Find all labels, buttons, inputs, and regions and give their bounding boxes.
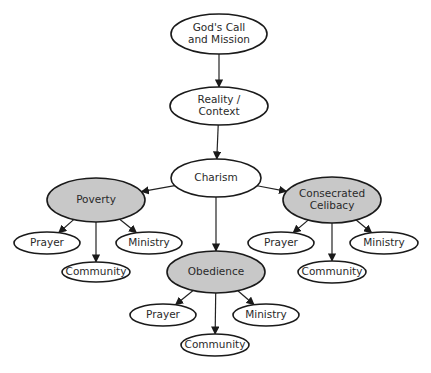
node-label-reality: Reality /: [198, 93, 241, 105]
node-label-obe-community: Community: [185, 338, 246, 350]
node-celibacy: ConsecratedCelibacy: [283, 177, 381, 223]
arrow-charism-to-poverty: [141, 186, 174, 192]
node-obedience: Obedience: [167, 251, 265, 293]
arrow-charism-to-celibacy: [257, 186, 287, 192]
arrow-reality-to-charism: [217, 125, 218, 159]
node-label-poverty: Poverty: [76, 193, 116, 205]
node-label-obe-ministry: Ministry: [245, 308, 287, 320]
node-label-call: and Mission: [188, 33, 250, 45]
node-label-pov-community: Community: [66, 265, 127, 277]
node-charism: Charism: [171, 159, 261, 197]
arrow-poverty-to-pov-prayer: [59, 220, 74, 233]
node-obe-prayer: Prayer: [130, 304, 196, 326]
arrow-obedience-to-obe-community: [215, 293, 216, 334]
node-label-cel-ministry: Ministry: [363, 236, 405, 248]
node-label-obedience: Obedience: [188, 265, 244, 277]
node-pov-ministry: Ministry: [116, 232, 182, 254]
node-cel-community: Community: [298, 261, 366, 283]
node-pov-community: Community: [62, 262, 130, 282]
arrow-celibacy-to-cel-prayer: [293, 220, 308, 233]
node-obe-community: Community: [181, 334, 249, 356]
node-label-celibacy: Consecrated: [299, 187, 365, 199]
arrow-poverty-to-pov-ministry: [120, 219, 137, 233]
node-call: God's Calland Mission: [171, 14, 267, 54]
arrow-obedience-to-obe-prayer: [176, 291, 194, 305]
node-cel-prayer: Prayer: [248, 232, 314, 254]
node-label-pov-ministry: Ministry: [128, 236, 170, 248]
node-reality: Reality /Context: [170, 87, 268, 125]
node-label-pov-prayer: Prayer: [30, 236, 65, 248]
node-label-call: God's Call: [193, 21, 246, 33]
node-obe-ministry: Ministry: [233, 304, 299, 326]
node-label-reality: Context: [198, 105, 239, 117]
arrow-obedience-to-obe-ministry: [238, 291, 254, 305]
node-label-cel-prayer: Prayer: [264, 236, 299, 248]
arrow-celibacy-to-cel-ministry: [356, 220, 371, 233]
node-label-celibacy: Celibacy: [310, 199, 355, 211]
node-label-obe-prayer: Prayer: [146, 308, 181, 320]
node-pov-prayer: Prayer: [14, 232, 80, 254]
node-label-cel-community: Community: [302, 265, 363, 277]
flowchart-diagram: God's Calland MissionReality /ContextCha…: [0, 0, 431, 373]
node-poverty: Poverty: [47, 178, 145, 222]
node-label-charism: Charism: [194, 171, 237, 183]
node-cel-ministry: Ministry: [350, 232, 418, 254]
